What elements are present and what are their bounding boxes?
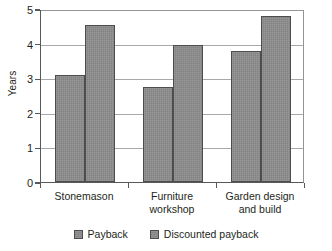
y-axis-tick-label: 1 [7,142,33,154]
bar-discounted-payback-0 [85,25,115,182]
y-axis-tick-mark [35,148,40,149]
y-axis-tick-mark [35,113,40,114]
y-axis-tick-label: 2 [7,108,33,120]
bar-payback-0 [55,75,85,182]
bar-discounted-payback-1 [173,45,203,182]
legend-swatch-icon [150,230,159,239]
legend-label: Payback [88,228,128,240]
y-axis-tick-label: 0 [7,177,33,189]
bar-discounted-payback-2 [261,16,291,182]
bar-chart: Years 012345 StonemasonFurniture worksho… [0,0,332,251]
x-axis-label-2: Garden design and build [208,190,312,215]
bar-payback-1 [143,87,173,182]
legend-item-0[interactable]: Payback [74,228,128,240]
y-axis-tick-label: 5 [7,4,33,16]
bar-payback-2 [231,51,261,182]
legend-label: Discounted payback [164,228,259,240]
x-axis-tick-mark [304,183,305,188]
chart-legend: PaybackDiscounted payback [0,228,332,240]
plot-area [40,10,304,183]
y-axis-tick-mark [35,44,40,45]
y-axis-tick-mark [35,79,40,80]
x-axis-tick-mark [216,183,217,188]
y-axis-tick-label: 4 [7,39,33,51]
x-axis-tick-mark [40,183,41,188]
y-axis-tick-label: 3 [7,73,33,85]
legend-swatch-icon [74,230,83,239]
legend-item-1[interactable]: Discounted payback [150,228,259,240]
x-axis-tick-mark [128,183,129,188]
y-axis-tick-mark [35,9,40,10]
bars-group [41,10,303,182]
